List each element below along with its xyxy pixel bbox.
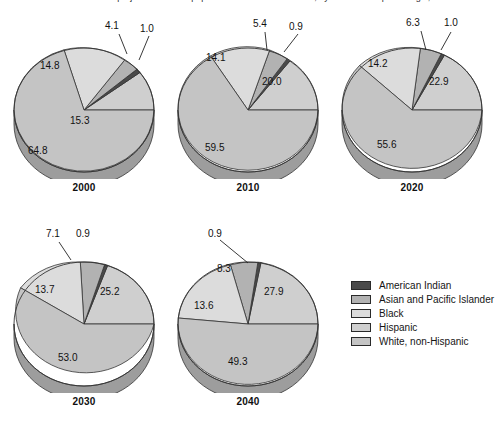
legend-swatch-american-indian bbox=[351, 281, 371, 290]
legend-swatch-white-non-hispanic bbox=[351, 337, 371, 346]
slice-value-white-2040: 49.3 bbox=[228, 356, 247, 367]
legend-label-white-non-hispanic: White, non-Hispanic bbox=[379, 336, 468, 347]
pie-stage-2030: 25.2 53.0 13.7 7.1 0.9 2030 bbox=[6, 228, 162, 393]
pie-chart-2030: 25.2 53.0 13.7 7.1 0.9 2030 bbox=[6, 228, 162, 393]
slice-value-black-2030: 13.7 bbox=[35, 284, 54, 295]
slice-value-hispanic-2030: 25.2 bbox=[100, 286, 119, 297]
legend-item-american-indian: American Indian bbox=[351, 279, 497, 292]
slice-value-hispanic-2040: 27.9 bbox=[264, 286, 283, 297]
legend-item-asian-and-pacific-islander: Asian and Pacific Islander bbox=[351, 293, 497, 306]
pie-graphic-2010 bbox=[170, 14, 326, 179]
slice-value-american-indian-2030: 0.9 bbox=[76, 228, 90, 239]
pie-year-label-2040: 2040 bbox=[170, 396, 326, 407]
pie-stage-2000: 15.3 64.8 14.8 4.1 1.0 2000 bbox=[6, 14, 162, 179]
slice-value-white-2020: 55.6 bbox=[377, 139, 396, 150]
slice-value-american-indian-2000: 1.0 bbox=[140, 23, 154, 34]
pie-year-label-2010: 2010 bbox=[170, 182, 326, 193]
slice-value-asian-2040: 8.3 bbox=[217, 263, 231, 274]
slice-value-black-2020: 14.2 bbox=[368, 58, 387, 69]
pie-graphic-2020 bbox=[334, 14, 490, 179]
pie-year-label-2000: 2000 bbox=[6, 182, 162, 193]
chart-title: Percent distribution of the projected re… bbox=[0, 0, 498, 2]
pie-stage-2010: 20.0 59.5 14.1 5.4 0.9 2010 bbox=[170, 14, 326, 179]
slice-value-white-2010: 59.5 bbox=[205, 142, 224, 153]
slice-value-asian-2030: 7.1 bbox=[46, 228, 60, 239]
legend-item-white-non-hispanic: White, non-Hispanic bbox=[351, 335, 497, 348]
legend-swatch-black bbox=[351, 309, 371, 318]
legend-label-black: Black bbox=[379, 308, 403, 319]
legend-label-asian-and-pacific-islander: Asian and Pacific Islander bbox=[379, 294, 494, 305]
legend-label-american-indian: American Indian bbox=[379, 280, 451, 291]
pie-year-label-2020: 2020 bbox=[334, 182, 490, 193]
pie-graphic-2030 bbox=[6, 228, 162, 393]
legend-swatch-asian-and-pacific-islander bbox=[351, 295, 371, 304]
slice-value-black-2010: 14.1 bbox=[206, 52, 225, 63]
slice-value-black-2040: 13.6 bbox=[194, 300, 213, 311]
legend-item-hispanic: Hispanic bbox=[351, 321, 497, 334]
chart-legend: American Indian Asian and Pacific Island… bbox=[351, 279, 497, 349]
slice-value-asian-2020: 6.3 bbox=[406, 17, 420, 28]
slice-value-white-2000: 64.8 bbox=[28, 145, 47, 156]
legend-swatch-hispanic bbox=[351, 323, 371, 332]
slice-value-american-indian-2020: 1.0 bbox=[444, 17, 458, 28]
pie-chart-2010: 20.0 59.5 14.1 5.4 0.9 2010 bbox=[170, 14, 326, 179]
pie-stage-2020: 22.9 55.6 14.2 6.3 1.0 2020 bbox=[334, 14, 490, 179]
legend-label-hispanic: Hispanic bbox=[379, 322, 417, 333]
pie-chart-2040: 27.9 49.3 13.6 8.3 0.9 2040 bbox=[170, 228, 326, 393]
slice-value-asian-2010: 5.4 bbox=[253, 18, 267, 29]
pie-year-label-2030: 2030 bbox=[6, 396, 162, 407]
pie-stage-2040: 27.9 49.3 13.6 8.3 0.9 2040 bbox=[170, 228, 326, 393]
slice-value-white-2030: 53.0 bbox=[58, 352, 77, 363]
slice-value-american-indian-2040: 0.9 bbox=[208, 228, 222, 239]
slice-value-asian-2000: 4.1 bbox=[105, 20, 119, 31]
slice-value-hispanic-2000: 15.3 bbox=[70, 115, 89, 126]
slice-value-hispanic-2020: 22.9 bbox=[429, 76, 448, 87]
slice-value-american-indian-2010: 0.9 bbox=[289, 21, 303, 32]
slice-value-hispanic-2010: 20.0 bbox=[262, 76, 281, 87]
pie-chart-2020: 22.9 55.6 14.2 6.3 1.0 2020 bbox=[334, 14, 490, 179]
pie-chart-2000: 15.3 64.8 14.8 4.1 1.0 2000 bbox=[6, 14, 162, 179]
legend-item-black: Black bbox=[351, 307, 497, 320]
slice-value-black-2000: 14.8 bbox=[40, 60, 59, 71]
